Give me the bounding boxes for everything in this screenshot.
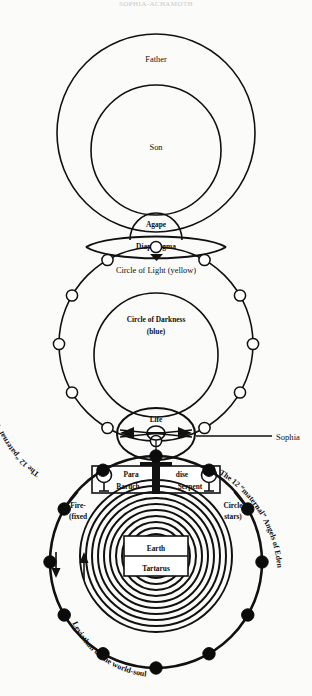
cross-vertical-overlay: [152, 462, 160, 494]
circle-label-line1: Circle: [223, 501, 243, 510]
paternal-angel-node: [66, 290, 77, 301]
paradise-label-left: Para: [123, 470, 138, 479]
circle-of-light-label: Circle of Light (yellow): [116, 266, 196, 275]
page-title-faint: SOPHIA-ACHAMOTH: [119, 0, 193, 8]
son-label: Son: [149, 143, 163, 152]
tartarus-label: Tartarus: [142, 564, 170, 573]
angels-of-elohim-textpath: The 12 “paternal” Angels of Elohim: [0, 369, 41, 479]
maternal-angel-node: [150, 662, 162, 674]
circle-label-line2: stars): [224, 512, 242, 521]
circle-of-darkness-label: Circle of Darkness: [127, 315, 186, 324]
agape-label: Agape: [146, 220, 167, 229]
earth-label: Earth: [147, 544, 165, 553]
paternal-angel-node: [234, 290, 245, 301]
maternal-angel-node: [44, 556, 56, 568]
father-label: Father: [145, 55, 167, 64]
life-label: Life: [150, 415, 163, 424]
maternal-angel-node: [150, 450, 162, 462]
paradise-label-right: dise: [176, 470, 189, 479]
gnostic-cosmology-diagram: SOPHIA-ACHAMOTH Father Son Agape Diaphra…: [0, 0, 312, 696]
paternal-angel-node: [150, 241, 161, 252]
descent-arrow-head: [52, 568, 61, 578]
circle-of-darkness-color-label: (blue): [147, 327, 166, 336]
paternal-angel-node: [102, 254, 113, 265]
paternal-angel-node: [234, 387, 245, 398]
paternal-angel-node: [53, 338, 64, 349]
diagram-canvas: SOPHIA-ACHAMOTH Father Son Agape Diaphra…: [0, 0, 312, 696]
maternal-angel-node: [203, 648, 215, 660]
maternal-angel-node: [242, 609, 254, 621]
fire-label-line1: Fire-: [70, 501, 86, 510]
paternal-angel-node: [66, 387, 77, 398]
maternal-angel-node: [58, 609, 70, 621]
maternal-angel-node: [97, 464, 109, 476]
paternal-angel-node: [247, 338, 258, 349]
fire-label-line2: (fixed: [69, 512, 88, 521]
paternal-angel-node: [102, 422, 113, 433]
maternal-angel-node: [256, 556, 268, 568]
paternal-angel-node: [199, 254, 210, 265]
sophia-label: Sophia: [276, 432, 300, 442]
circle-of-light: [59, 247, 253, 441]
paternal-angel-node: [199, 422, 210, 433]
circle-of-darkness: [94, 293, 218, 417]
angels-of-elohim-label: The 12 “paternal” Angels of Elohim: [0, 369, 41, 479]
maternal-angel-node: [203, 464, 215, 476]
